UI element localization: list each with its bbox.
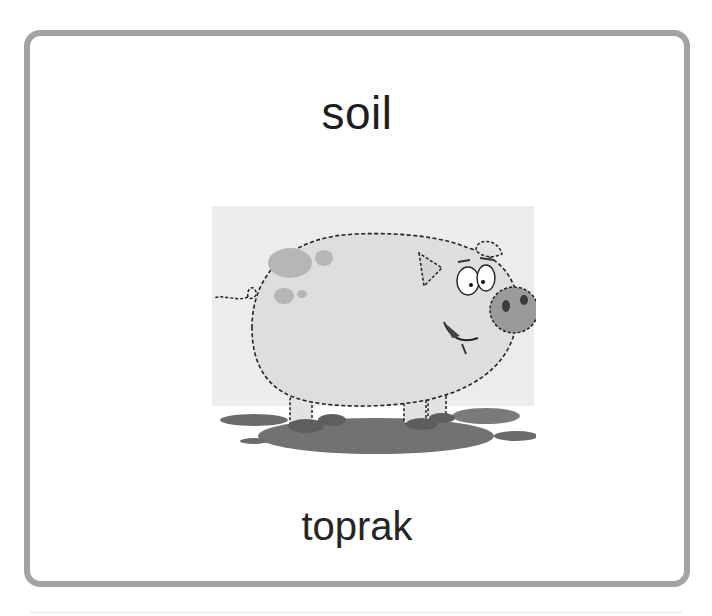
flashcard-word: soil [30,86,684,140]
pig-snout [490,287,536,333]
divider [30,612,682,613]
pig-in-mud-illustration [206,198,536,458]
flashcard-translation: toprak [30,504,684,549]
pig-eye-right [477,265,495,291]
mud-puddle-icon [220,408,536,454]
flashcard[interactable]: soil [24,30,690,587]
pig-eye-left [457,267,479,295]
